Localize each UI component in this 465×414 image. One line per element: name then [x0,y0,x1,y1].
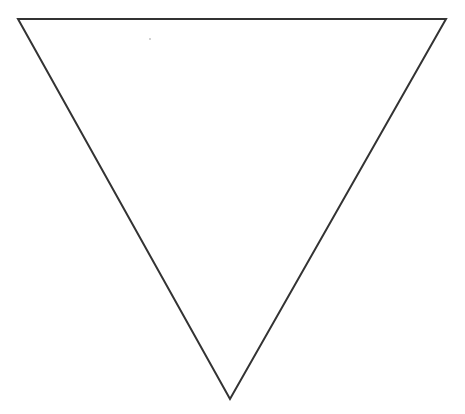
inverted-triangle-figure [0,0,465,414]
triangle-outline [18,19,446,399]
stray-dot [149,38,151,40]
diagram-canvas [0,0,465,414]
